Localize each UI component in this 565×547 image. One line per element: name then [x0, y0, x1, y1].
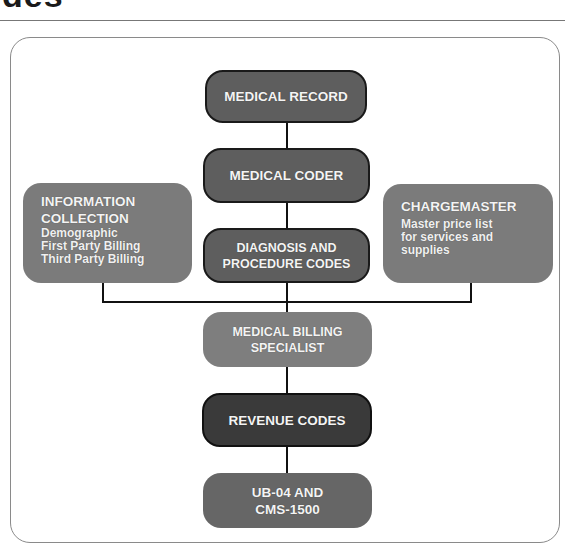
node-diagnosis-procedure-codes: DIAGNOSIS AND PROCEDURE CODES — [203, 228, 370, 283]
connector-charge-drop — [470, 283, 472, 302]
connector-record-coder — [286, 123, 288, 148]
connector-billing-revenue — [286, 367, 288, 393]
node-label-line2: COLLECTION — [41, 210, 129, 227]
node-information-collection: INFORMATION COLLECTION Demographic First… — [23, 183, 192, 283]
connector-info-drop — [102, 283, 104, 302]
chargemaster-desc-line3: supplies — [401, 244, 450, 257]
connector-coder-diagnosis — [286, 203, 288, 228]
node-label: MEDICAL RECORD — [224, 88, 348, 105]
node-medical-billing-specialist: MEDICAL BILLING SPECIALIST — [203, 312, 372, 367]
node-label-line1: UB-04 AND — [252, 484, 324, 501]
connector-horizontal-bus — [102, 301, 472, 303]
heading-rule — [0, 20, 565, 21]
node-revenue-codes: REVENUE CODES — [202, 393, 372, 447]
node-label-line1: DIAGNOSIS AND — [236, 240, 336, 256]
node-label-line2: PROCEDURE CODES — [223, 256, 351, 272]
node-label-line1: MEDICAL BILLING — [232, 324, 342, 340]
node-medical-record: MEDICAL RECORD — [205, 70, 367, 123]
node-label: CHARGEMASTER — [401, 198, 517, 215]
node-label: REVENUE CODES — [228, 412, 345, 429]
info-item-third-party-billing: Third Party Billing — [41, 253, 144, 266]
node-label-line1: INFORMATION — [41, 193, 135, 210]
node-label-line2: SPECIALIST — [251, 340, 325, 356]
node-chargemaster: CHARGEMASTER Master price list for servi… — [383, 184, 553, 283]
connector-revenue-claims — [286, 447, 288, 473]
node-label-line2: CMS-1500 — [255, 501, 320, 518]
node-medical-coder: MEDICAL CODER — [203, 148, 370, 203]
page-heading-fragment: des — [2, 0, 64, 12]
connector-diagnosis-bus — [286, 283, 288, 312]
node-label: MEDICAL CODER — [230, 167, 344, 184]
node-claim-forms: UB-04 AND CMS-1500 — [203, 473, 372, 528]
